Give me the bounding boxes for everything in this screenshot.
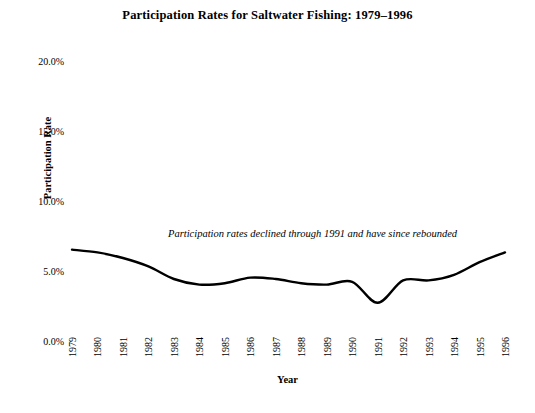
chart-figure: Participation Rates for Saltwater Fishin… bbox=[0, 0, 535, 413]
x-tick-label: 1991 bbox=[373, 323, 384, 357]
x-tick-label: 1995 bbox=[475, 323, 486, 357]
data-series-line bbox=[72, 250, 505, 303]
x-axis-title: Year bbox=[0, 374, 535, 385]
x-tick-label: 1989 bbox=[322, 323, 333, 357]
x-tick-label: 1993 bbox=[424, 323, 435, 357]
x-tick-label: 1986 bbox=[245, 323, 256, 357]
x-tick-label: 1981 bbox=[118, 323, 129, 357]
x-tick-label: 1985 bbox=[220, 323, 231, 357]
x-tick-label: 1987 bbox=[271, 323, 282, 357]
chart-title: Participation Rates for Saltwater Fishin… bbox=[0, 8, 535, 23]
x-tick-label: 1988 bbox=[296, 323, 307, 357]
y-tick-label: 15.0% bbox=[12, 126, 64, 137]
x-tick-label: 1996 bbox=[500, 323, 511, 357]
y-axis-tick-labels: 20.0% 15.0% 10.0% 5.0% 0.0% bbox=[8, 56, 64, 348]
x-tick-label: 1982 bbox=[143, 323, 154, 357]
y-tick-label: 20.0% bbox=[12, 56, 64, 67]
x-tick-label: 1992 bbox=[398, 323, 409, 357]
x-tick-label: 1980 bbox=[92, 323, 103, 357]
x-tick-label: 1983 bbox=[169, 323, 180, 357]
x-tick-label: 1984 bbox=[194, 323, 205, 357]
y-tick-label: 0.0% bbox=[12, 336, 64, 347]
x-tick-label: 1990 bbox=[347, 323, 358, 357]
x-tick-label: 1994 bbox=[449, 323, 460, 357]
chart-annotation: Participation rates declined through 199… bbox=[168, 228, 457, 239]
y-tick-label: 5.0% bbox=[12, 266, 64, 277]
y-tick-label: 10.0% bbox=[12, 196, 64, 207]
x-tick-label: 1979 bbox=[67, 323, 78, 357]
